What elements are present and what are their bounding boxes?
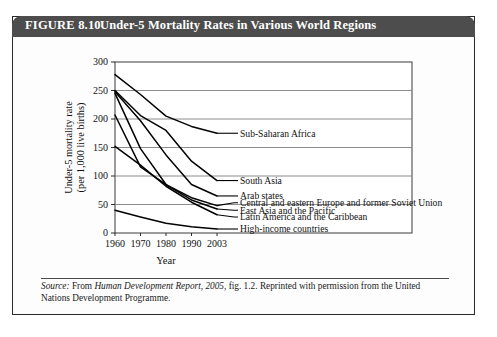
page-title: Under-5 Mortality Rates in Various World… — [100, 18, 376, 33]
figure-number-label: FIGURE 8.10 — [25, 18, 101, 33]
y-axis-title-line2: (per 1,000 live births) — [75, 103, 87, 193]
series-label: Sub-Saharan Africa — [240, 128, 316, 139]
series-label: Latin America and the Caribbean — [240, 211, 368, 222]
chart-region: 05010015020025030019601970198019902003Ye… — [12, 37, 475, 274]
source-prefix: Source: — [41, 281, 70, 291]
y-tick-label: 0 — [103, 227, 108, 238]
line-chart: 05010015020025030019601970198019902003Ye… — [12, 37, 475, 274]
x-tick-label: 1970 — [131, 238, 151, 249]
y-tick-label: 150 — [93, 142, 108, 153]
y-tick-label: 250 — [93, 85, 108, 96]
series-label: High-income countries — [240, 223, 328, 234]
x-tick-label: 2003 — [207, 238, 227, 249]
y-tick-label: 200 — [93, 113, 108, 124]
x-axis-title: Year — [156, 255, 176, 266]
source-report-title: Human Development Report, 2005 — [94, 281, 224, 291]
x-tick-label: 1990 — [182, 238, 202, 249]
source-divider — [41, 278, 449, 279]
y-tick-label: 300 — [93, 56, 108, 67]
source-note: Source: From Human Development Report, 2… — [41, 281, 451, 304]
x-tick-label: 1980 — [156, 238, 176, 249]
y-tick-label: 50 — [98, 199, 108, 210]
y-axis-title-line1: Under-5 mortality rate — [63, 101, 74, 194]
figure-title-bar: FIGURE 8.10 Under-5 Mortality Rates in V… — [12, 16, 475, 37]
y-tick-label: 100 — [93, 170, 108, 181]
source-text-part1: From — [70, 281, 95, 291]
x-tick-label: 1960 — [105, 238, 125, 249]
series-label: South Asia — [240, 175, 283, 186]
